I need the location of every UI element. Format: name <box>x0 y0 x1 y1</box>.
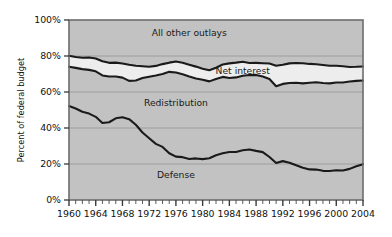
y-tick-label: 20% <box>40 158 61 169</box>
annotation-all-other-outlays: All other outlays <box>152 27 227 38</box>
annotation-redistribution: Redistribution <box>144 97 208 108</box>
plot-background <box>69 20 363 200</box>
x-tick-label: 1996 <box>298 208 322 219</box>
y-tick-label: 40% <box>40 122 61 133</box>
x-tick-label: 1964 <box>84 208 108 219</box>
x-tick-label: 1988 <box>244 208 268 219</box>
x-tick-label: 1976 <box>164 208 188 219</box>
y-tick-label: 80% <box>40 50 61 61</box>
x-tick-label: 1960 <box>57 208 81 219</box>
x-tick-label: 1968 <box>111 208 135 219</box>
x-tick-label: 1980 <box>191 208 215 219</box>
x-tick-label: 1992 <box>271 208 295 219</box>
annotation-net-interest: Net interest <box>216 65 271 76</box>
annotation-defense: Defense <box>157 169 195 180</box>
y-tick-label: 60% <box>40 86 61 97</box>
federal-budget-composition-chart: 0%20%40%60%80%100% 196019641968197219761… <box>0 0 392 237</box>
x-tick-label: 1972 <box>137 208 161 219</box>
x-tick-label: 2004 <box>351 208 375 219</box>
y-tick-label: 100% <box>34 14 61 25</box>
x-tick-label: 2000 <box>324 208 348 219</box>
chart-figure: 0%20%40%60%80%100% 196019641968197219761… <box>0 0 392 237</box>
y-tick-label: 0% <box>46 194 61 205</box>
y-axis-title: Percent of federal budget <box>16 57 26 162</box>
x-tick-label: 1984 <box>217 208 241 219</box>
